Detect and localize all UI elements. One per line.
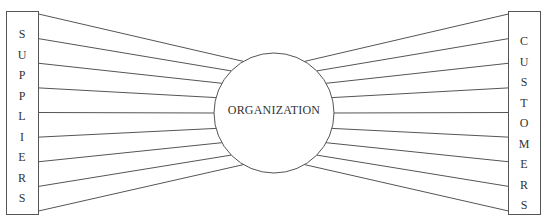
connector-line [332,88,509,98]
customer-letter: R [508,175,540,196]
supplier-letter: L [6,106,38,127]
customers-label: C U S T O M E R S [508,31,540,216]
customer-letter: M [508,134,540,155]
organization-label: ORGANIZATION [214,103,334,118]
supplier-letter: S [6,24,38,45]
customer-letter: U [508,52,540,73]
connector-line [39,113,215,114]
suppliers-label: S U P P L I E R S [6,24,38,209]
supplier-letter: U [6,45,38,66]
connector-line [317,155,509,186]
connector-line [39,63,222,83]
customer-letter: O [508,113,540,134]
connector-line [305,14,509,61]
customer-letter: C [508,31,540,52]
customer-letter: S [508,195,540,216]
connector-line [326,63,508,83]
connector-line [39,155,232,186]
supplier-letter: S [6,188,38,209]
customer-connections [305,14,509,211]
customer-letter: E [508,154,540,175]
connector-line [39,128,217,137]
connector-line [39,165,244,211]
connector-line [305,165,509,211]
connector-line [39,88,217,98]
connector-line [334,113,509,114]
connector-line [39,143,222,162]
supplier-letter: R [6,168,38,189]
supplier-letter: E [6,147,38,168]
customer-letter: S [508,72,540,93]
supplier-connections [39,14,244,211]
connector-line [332,128,509,137]
connector-line [326,143,508,162]
supplier-letter: P [6,86,38,107]
customer-letter: T [508,93,540,114]
supplier-letter: I [6,127,38,148]
connector-line [39,14,244,61]
supplier-letter: P [6,65,38,86]
